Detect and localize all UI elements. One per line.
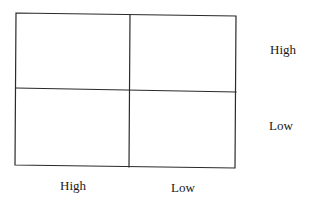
matrix-horizontal-divider xyxy=(16,88,236,92)
column-label-high: High xyxy=(60,179,86,192)
matrix-grid xyxy=(0,0,310,202)
row-label-high: High xyxy=(270,43,296,56)
row-label-low: Low xyxy=(269,119,293,132)
matrix-vertical-divider xyxy=(129,15,130,167)
column-label-low: Low xyxy=(171,181,195,194)
